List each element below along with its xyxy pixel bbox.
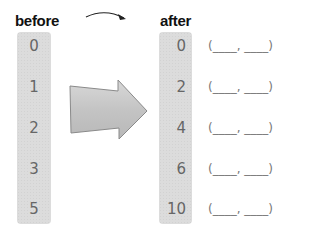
coordinate-blank[interactable]: (____, ____) [208,39,273,53]
curved-arrow-icon [86,13,126,20]
after-heading: after [160,12,191,29]
before-value: 2 [17,119,51,137]
after-value: 10 [156,200,186,218]
coordinate-blank[interactable]: (____, ____) [208,202,273,216]
coordinate-blank[interactable]: (____, ____) [208,80,273,94]
coordinate-blank[interactable]: (____, ____) [208,121,273,135]
coordinate-blank[interactable]: (____, ____) [208,162,273,176]
before-value: 0 [17,37,51,55]
before-value: 1 [17,78,51,96]
after-value: 0 [156,37,186,55]
before-value: 5 [17,200,51,218]
before-heading: before [15,12,59,29]
after-value: 4 [156,119,186,137]
after-value: 2 [156,78,186,96]
big-right-arrow-icon [70,80,147,139]
before-value: 3 [17,160,51,178]
after-value: 6 [156,160,186,178]
